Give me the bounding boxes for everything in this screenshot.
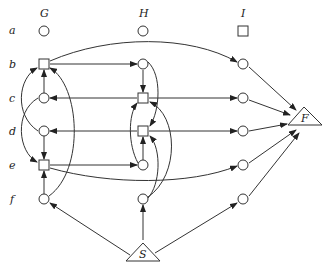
node-i-f — [238, 194, 248, 204]
row-label-d: d — [9, 125, 16, 138]
row-label-f: f — [9, 193, 16, 206]
node-h-f — [138, 194, 148, 204]
column-label-i: I — [240, 7, 246, 20]
row-label-b: b — [9, 58, 16, 71]
node-h-c — [138, 93, 148, 103]
node-g-a — [39, 26, 49, 36]
node-g-f — [39, 194, 49, 204]
node-h-d — [138, 126, 148, 136]
node-h-a — [138, 26, 148, 36]
terminal-f-label: F — [300, 112, 309, 125]
node-i-a — [238, 26, 248, 36]
node-i-c — [238, 93, 248, 103]
node-i-d — [238, 126, 248, 136]
terminal-s-label: S — [139, 248, 147, 261]
column-label-g: G — [40, 7, 49, 20]
graph-diagram: G H I a b c d e f — [0, 0, 333, 272]
row-label-a: a — [9, 24, 16, 37]
node-h-b — [138, 59, 148, 69]
node-g-e — [39, 160, 49, 170]
node-g-d — [39, 126, 49, 136]
node-h-e — [138, 160, 148, 170]
node-g-c — [39, 93, 49, 103]
row-label-c: c — [9, 92, 15, 105]
column-label-h: H — [138, 7, 149, 20]
node-g-b — [39, 59, 49, 69]
node-i-b — [238, 59, 248, 69]
edges — [21, 42, 299, 255]
row-label-e: e — [9, 159, 16, 172]
node-i-e — [238, 160, 248, 170]
